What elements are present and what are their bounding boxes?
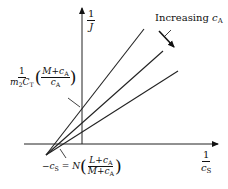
- xint-paren-den-sub: A: [110, 170, 115, 177]
- increasing-arrow: [159, 31, 174, 47]
- increasing-annotation: Increasing cA: [155, 12, 223, 25]
- x-axis-label: 1cS: [200, 150, 212, 175]
- xint-lhs: −c: [42, 161, 55, 171]
- yint-den-c-sub: T: [29, 80, 33, 87]
- y-label-den: J: [89, 21, 93, 32]
- line-1: [46, 29, 144, 155]
- x-intercept-label: −cS = N(L+cAM+cA): [42, 156, 122, 178]
- x-label-num: 1: [202, 150, 210, 162]
- y-label-num: 1: [87, 9, 95, 21]
- increasing-sub: A: [218, 17, 223, 25]
- x-label-den-sub: S: [207, 166, 212, 174]
- xint-paren-num: L+c: [89, 155, 108, 165]
- increasing-text: Increasing: [155, 12, 209, 23]
- yint-paren-num: M+c: [42, 66, 64, 76]
- xint-eq: = N: [62, 161, 80, 171]
- yint-paren-num-sub: A: [64, 70, 69, 77]
- xint-lhs-sub: S: [55, 165, 59, 172]
- yint-den-m: m: [10, 77, 19, 87]
- xint-paren-den: M+c: [88, 166, 110, 176]
- y-intercept-label: 1m2CT(M+cAcA): [9, 67, 76, 89]
- xint-paren-num-sub: A: [108, 159, 113, 166]
- increasing-pointer: [164, 30, 171, 37]
- y-axis-label: 1J: [87, 9, 95, 32]
- yint-paren-den-sub: A: [56, 81, 61, 88]
- y-intercept-pointer: [68, 98, 80, 107]
